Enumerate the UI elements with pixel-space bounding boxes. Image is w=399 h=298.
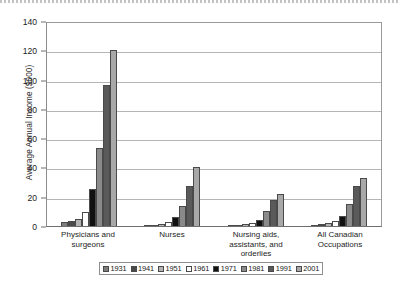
bar-1981 [263,211,270,226]
legend-swatch-icon [268,266,274,272]
bar-1961 [249,223,256,226]
bar-1951 [75,219,82,226]
bar-cluster [298,23,382,226]
bar-1971 [89,189,96,226]
legend-swatch-icon [103,266,109,272]
legend-label: 1991 [276,264,292,273]
legend-swatch-icon [213,266,219,272]
y-axis-tick-labels: 020406080100120140 [0,22,46,227]
legend-label: 1961 [193,264,209,273]
bar-1951 [325,223,332,226]
legend-item-1941[interactable]: 1941 [131,264,155,273]
plot-area [46,22,382,227]
bar-1981 [96,148,103,226]
bar-2001 [277,194,284,226]
bar-cluster [131,23,215,226]
legend-swatch-icon [296,266,302,272]
bar-1931 [61,222,68,226]
legend-label: 1941 [138,264,154,273]
legend-swatch-icon [158,266,164,272]
bar-1981 [346,204,353,226]
legend-swatch-icon [241,266,247,272]
legend-item-2001[interactable]: 2001 [296,264,320,273]
bar-1951 [242,224,249,226]
legend-swatch-icon [131,266,137,272]
bar-1931 [144,225,151,226]
legend-label: 1951 [166,264,182,273]
legend-label: 1981 [248,264,264,273]
y-axis-tick-label: 120 [23,46,37,56]
bar-1991 [270,200,277,226]
bar-cluster [47,23,131,226]
bar-2001 [110,50,117,226]
bar-1971 [256,220,263,226]
bar-1931 [311,225,318,226]
bar-2001 [193,167,200,226]
bar-clusters [47,23,381,226]
bar-1941 [318,224,325,226]
legend-item-1991[interactable]: 1991 [268,264,292,273]
bar-1981 [179,206,186,227]
bar-1961 [332,221,339,226]
legend-label: 1931 [111,264,127,273]
bar-1991 [353,186,360,226]
y-axis-tick-label: 60 [27,134,37,144]
chart-legend: 19311941195119611971198119912001 [99,262,323,275]
scan-edge-decoration [0,0,399,3]
bar-1931 [228,225,235,226]
legend-item-1961[interactable]: 1961 [186,264,210,273]
y-axis-tick-label: 40 [27,163,37,173]
y-axis-tick-label: 20 [27,193,37,203]
bar-cluster [214,23,298,226]
bar-1991 [186,186,193,226]
x-axis-category-label: All Canadian Occupations [298,230,382,256]
bar-1961 [165,222,172,226]
x-axis-category-label: Nursing aids, assistants, and orderlies [214,230,298,256]
legend-item-1981[interactable]: 1981 [241,264,265,273]
bar-1971 [339,216,346,226]
bar-1951 [158,224,165,226]
bar-1941 [151,225,158,226]
chart-figure: Average Annual Income ($000) 02040608010… [0,0,399,298]
x-axis-category-labels: Physicians and surgeonsNursesNursing aid… [46,230,382,256]
bar-1941 [235,225,242,226]
legend-item-1951[interactable]: 1951 [158,264,182,273]
bar-1941 [68,221,75,226]
y-axis-tick-label: 0 [32,222,37,232]
legend-label: 1971 [221,264,237,273]
bar-1961 [82,212,89,226]
bar-2001 [360,178,367,226]
legend-swatch-icon [186,266,192,272]
bar-1991 [103,85,110,226]
bar-1971 [172,217,179,226]
y-axis-tick-label: 80 [27,105,37,115]
legend-item-1931[interactable]: 1931 [103,264,127,273]
x-axis-category-label: Physicians and surgeons [46,230,130,256]
legend-label: 2001 [303,264,319,273]
x-axis-category-label: Nurses [130,230,214,256]
y-axis-tick-label: 140 [23,17,37,27]
legend-item-1971[interactable]: 1971 [213,264,237,273]
y-axis-tick-label: 100 [23,76,37,86]
